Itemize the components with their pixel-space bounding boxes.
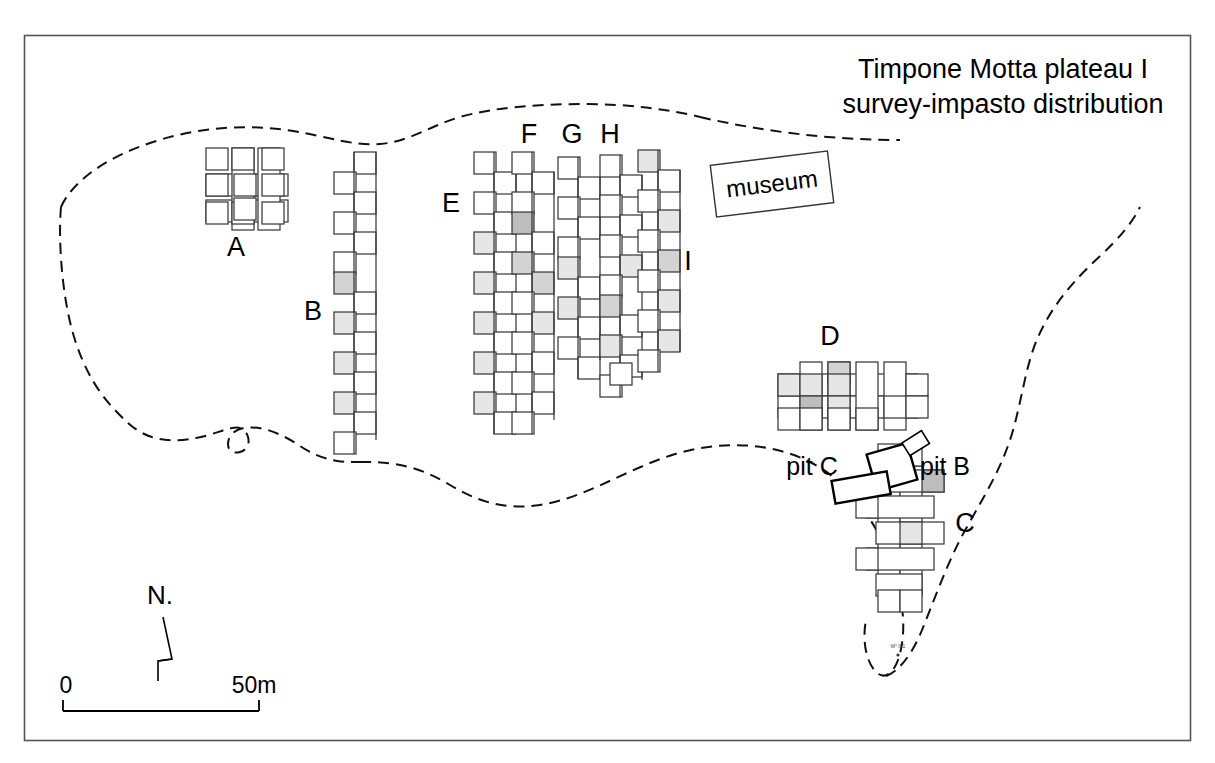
pit-c-label: pit C xyxy=(786,452,837,480)
scale-label-max: 50m xyxy=(232,672,277,698)
figure-title-line1: Timpone Motta plateau I xyxy=(858,54,1148,84)
area-label-g: G xyxy=(561,119,582,149)
scale-label-zero: 0 xyxy=(60,672,73,698)
survey-area-e xyxy=(474,152,516,434)
area-label-b: B xyxy=(304,296,322,326)
area-label-h: H xyxy=(600,119,620,149)
area-label-d: D xyxy=(820,321,840,351)
plateau-contour-northeast xyxy=(700,117,900,140)
survey-area-g xyxy=(558,157,600,379)
site-map-figure: A B xyxy=(0,0,1215,763)
area-label-e: E xyxy=(442,188,460,218)
north-arrow xyxy=(158,617,172,681)
plateau-contour-west xyxy=(60,207,360,462)
scale-bar xyxy=(63,700,259,711)
area-label-i: I xyxy=(684,246,692,276)
museum-building: museum xyxy=(710,151,833,217)
area-label-a: A xyxy=(227,232,245,262)
survey-area-b xyxy=(334,152,376,454)
small-marker-label: M° II.1 xyxy=(891,643,906,649)
survey-area-d xyxy=(778,362,928,430)
small-site-marker: M° II.1 xyxy=(891,643,906,657)
figure-title-line2: survey-impasto distribution xyxy=(842,89,1163,119)
north-label: N. xyxy=(147,580,173,610)
survey-area-a xyxy=(206,148,288,230)
survey-area-h xyxy=(600,155,642,397)
survey-area-f xyxy=(512,152,554,434)
area-label-c: C xyxy=(955,508,975,538)
area-label-f: F xyxy=(521,119,538,149)
pit-b-label: pit B xyxy=(920,452,970,480)
